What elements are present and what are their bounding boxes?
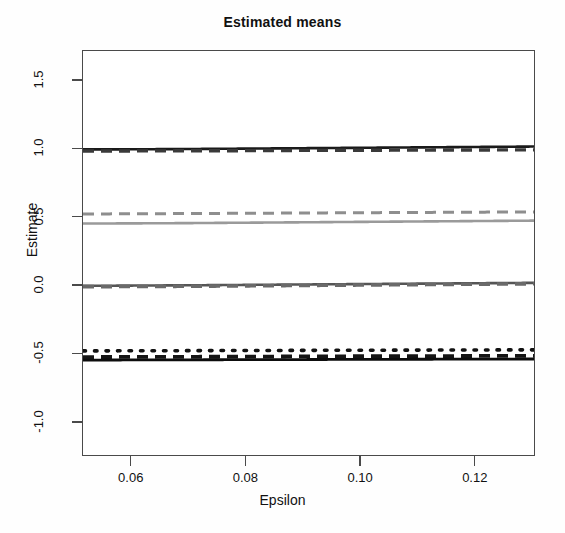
y-tick-label: 1.0 (31, 118, 46, 178)
x-tick-mark (245, 456, 246, 466)
x-tick-mark (474, 456, 475, 466)
series-line-lower-dashed (83, 356, 535, 357)
y-tick-mark (72, 421, 82, 422)
x-tick-label: 0.12 (445, 470, 505, 485)
chart-figure: Estimated means Estimate Epsilon 1.51.00… (0, 0, 565, 533)
y-tick-mark (72, 284, 82, 285)
y-tick-label: 0.5 (31, 186, 46, 246)
y-tick-mark (72, 353, 82, 354)
plot-area (82, 50, 535, 456)
series-line-lower-solid (83, 359, 535, 360)
chart-title: Estimated means (0, 14, 565, 30)
x-tick-mark (359, 456, 360, 466)
x-tick-mark (130, 456, 131, 466)
y-tick-label: -0.5 (31, 323, 46, 383)
y-tick-label: -1.0 (31, 391, 46, 451)
y-tick-mark (72, 216, 82, 217)
x-tick-label: 0.10 (330, 470, 390, 485)
x-tick-label: 0.06 (101, 470, 161, 485)
series-line-mid-upper-dashed (83, 212, 535, 214)
series-layer (83, 51, 534, 456)
y-tick-label: 1.5 (31, 50, 46, 110)
y-tick-mark (72, 79, 82, 80)
series-canvas (83, 51, 535, 456)
series-line-lower-dotted (83, 350, 535, 351)
x-tick-label: 0.08 (215, 470, 275, 485)
x-axis-title: Epsilon (0, 492, 565, 508)
series-line-mid-upper-solid (83, 221, 535, 224)
y-tick-label: 0.0 (31, 255, 46, 315)
y-tick-mark (72, 148, 82, 149)
